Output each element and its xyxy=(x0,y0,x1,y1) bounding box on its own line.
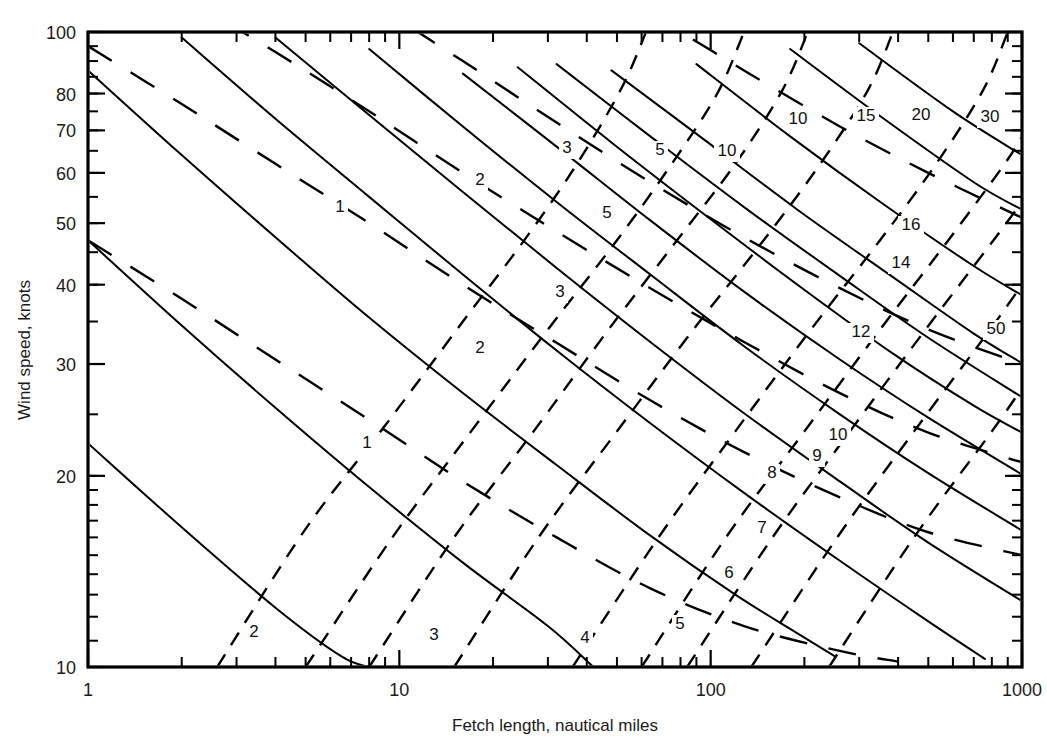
y-tick-label: 80 xyxy=(56,85,76,105)
curve-label-wave-height-8: 8 xyxy=(767,463,776,482)
y-tick-label: 100 xyxy=(46,23,76,43)
curve-duration-5 xyxy=(454,32,893,667)
curve-label-duration-10: 10 xyxy=(789,109,808,128)
curve-label-duration-50: 50 xyxy=(987,319,1006,338)
curve-label-period-1: 1 xyxy=(362,433,371,452)
y-tick-label: 40 xyxy=(56,276,76,296)
x-axis-tick-labels: 1101001000 xyxy=(83,680,1042,700)
curve-label-duration-20: 20 xyxy=(912,105,931,124)
curve-wave-height-12 xyxy=(696,64,1022,295)
curve-label-duration-15: 15 xyxy=(857,106,876,125)
curve-label-wave-height-5: 5 xyxy=(655,140,664,159)
curve-label-duration-30: 30 xyxy=(981,107,1000,126)
nomogram-svg: 1101001000 1008070605040302010 123551010… xyxy=(0,0,1047,753)
y-tick-label: 50 xyxy=(56,214,76,234)
curve-label-wave-height-16: 16 xyxy=(902,215,921,234)
curve-label-wave-height-5: 5 xyxy=(675,614,684,633)
y-tick-label: 30 xyxy=(56,355,76,375)
curve-wave-height-10 xyxy=(611,70,1022,363)
y-tick-label: 60 xyxy=(56,164,76,184)
curve-layer xyxy=(88,0,1022,667)
y-tick-label: 10 xyxy=(56,658,76,678)
curve-label-wave-height-9: 9 xyxy=(812,446,821,465)
curve-duration-20 xyxy=(687,202,1022,667)
curve-wave-height-7 xyxy=(463,74,1022,475)
curve-label-wave-height-6: 6 xyxy=(724,563,733,582)
y-tick-label: 70 xyxy=(56,121,76,141)
curve-label-wave-height-2: 2 xyxy=(475,170,484,189)
curve-label-duration-10: 10 xyxy=(718,141,737,160)
curve-period-10 xyxy=(650,13,1022,217)
wave-nomogram-chart: 1101001000 1008070605040302010 123551010… xyxy=(0,0,1047,753)
curve-label-wave-height-14: 14 xyxy=(892,253,911,272)
curve-labels: 123551010152030161412503211098765432 xyxy=(246,105,1009,649)
curve-wave-height-4 xyxy=(182,38,985,659)
curve-label-wave-height-10: 10 xyxy=(829,425,848,444)
curve-duration-50 xyxy=(829,388,1022,667)
curve-label-wave-height-3: 3 xyxy=(429,625,438,644)
curve-label-wave-height-4: 4 xyxy=(580,628,589,647)
x-tick-label: 10 xyxy=(389,680,409,700)
curve-duration-3 xyxy=(369,32,808,667)
x-tick-label: 1 xyxy=(83,680,93,700)
curve-wave-height-14 xyxy=(790,49,1022,210)
curve-period-1 xyxy=(88,240,898,661)
curve-label-wave-height-2: 2 xyxy=(249,622,258,641)
curve-label-wave-height-3: 3 xyxy=(562,138,571,157)
y-axis-tick-labels: 1008070605040302010 xyxy=(46,23,76,678)
curve-duration-2 xyxy=(306,32,744,667)
curve-label-period-2: 2 xyxy=(475,338,484,357)
curve-label-period-3: 3 xyxy=(555,282,564,301)
y-tick-label: 20 xyxy=(56,467,76,487)
curve-label-wave-height-7: 7 xyxy=(757,518,766,537)
curve-label-wave-height-12: 12 xyxy=(852,322,871,341)
x-tick-label: 100 xyxy=(696,680,726,700)
y-axis-title: Wind speed, knots xyxy=(15,280,34,420)
curve-label-wave-height-5: 5 xyxy=(602,203,611,222)
curve-duration-15 xyxy=(642,136,1022,667)
curve-label-wave-height-1: 1 xyxy=(335,197,344,216)
x-axis-title: Fetch length, nautical miles xyxy=(452,716,658,735)
x-tick-label: 1000 xyxy=(1002,680,1042,700)
